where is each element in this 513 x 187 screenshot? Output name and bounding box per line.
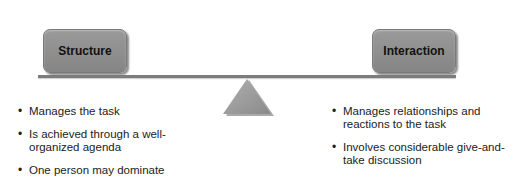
interaction-points-list: Manages relationships and reactions to t… <box>331 105 506 177</box>
list-item: Involves considerable give-and-take disc… <box>331 141 506 167</box>
list-item: Manages relationships and reactions to t… <box>331 105 506 131</box>
list-item: One person may dominate <box>17 164 177 177</box>
list-item: Manages the task <box>17 105 177 118</box>
interaction-box: Interaction <box>372 29 456 73</box>
structure-points-list: Manages the task Is achieved through a w… <box>17 105 177 187</box>
structure-label: Structure <box>58 44 111 58</box>
list-item: Is achieved through a well-organized age… <box>17 128 177 154</box>
fulcrum-triangle-icon <box>222 78 276 118</box>
structure-box: Structure <box>43 29 127 73</box>
interaction-label: Interaction <box>383 44 444 58</box>
